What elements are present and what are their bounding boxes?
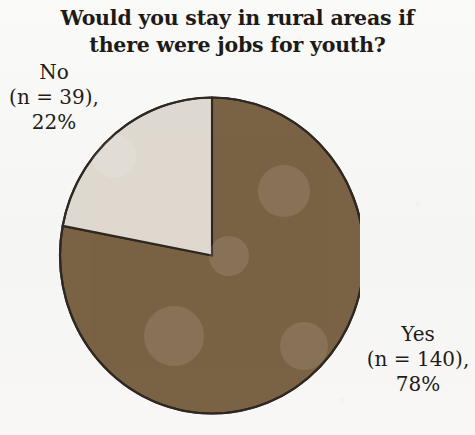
pie-label-no-count: (n = 39), [2,85,106,110]
pie-label-yes-count: (n = 140), [362,347,474,372]
chart-title-line-1: Would you stay in rural areas if [0,5,475,32]
pie-label-yes-category: Yes [362,322,474,347]
pie-label-no: No (n = 39), 22% [2,60,106,135]
pie-label-no-percent: 22% [2,110,106,135]
pie-label-no-category: No [2,60,106,85]
pie-label-yes: Yes (n = 140), 78% [362,322,474,397]
chart-title-line-2: there were jobs for youth? [0,32,475,59]
pie-chart-figure: Would you stay in rural areas if there w… [0,0,475,435]
pie-graphic [54,96,360,415]
chart-title: Would you stay in rural areas if there w… [0,5,475,59]
pie-label-yes-percent: 78% [362,372,474,397]
